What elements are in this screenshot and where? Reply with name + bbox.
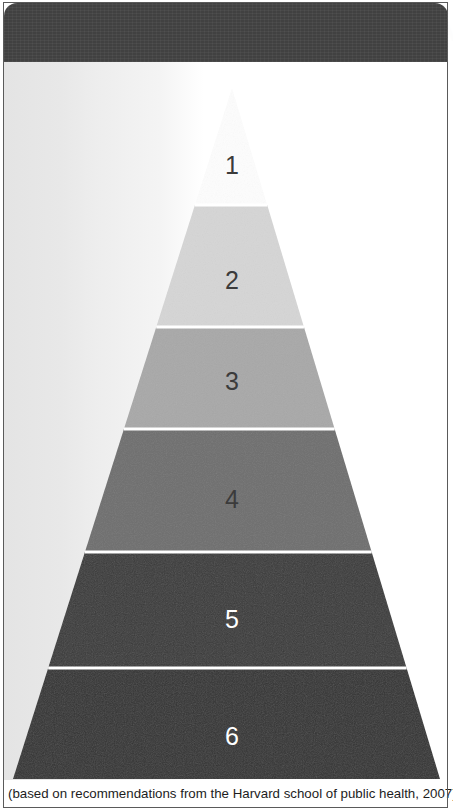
header-bar — [4, 3, 448, 62]
pyramid-diagram — [0, 0, 453, 812]
pyramid-tier-label-2: 2 — [202, 268, 262, 293]
pyramid-tier-label-1: 1 — [202, 153, 262, 178]
source-caption: (based on recommendations from the Harva… — [8, 785, 448, 803]
pyramid-tier-1 — [195, 88, 267, 205]
healthy-eating-pyramid-page: THE HEALTHY EATING PYRAMID 123456 (based… — [0, 0, 453, 812]
pyramid-tier-label-5: 5 — [202, 607, 262, 632]
pyramid-tier-label-6: 6 — [202, 724, 262, 749]
pyramid-tier-label-4: 4 — [202, 487, 262, 512]
pyramid-tier-label-3: 3 — [202, 369, 262, 394]
